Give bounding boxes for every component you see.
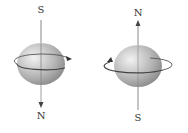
left-top-pole-label: S (38, 5, 45, 15)
spin-diagram (0, 0, 188, 133)
right-top-pole-label: N (134, 8, 143, 18)
left-sphere-figure (14, 20, 72, 108)
right-bottom-pole-label: S (135, 113, 142, 123)
rotation-arrow-icon (107, 57, 113, 62)
arrow-up-icon (136, 20, 141, 26)
rotation-arrow-icon (66, 56, 72, 61)
right-sphere-figure (104, 20, 172, 110)
arrow-down-icon (39, 102, 44, 108)
left-bottom-pole-label: N (37, 111, 46, 121)
